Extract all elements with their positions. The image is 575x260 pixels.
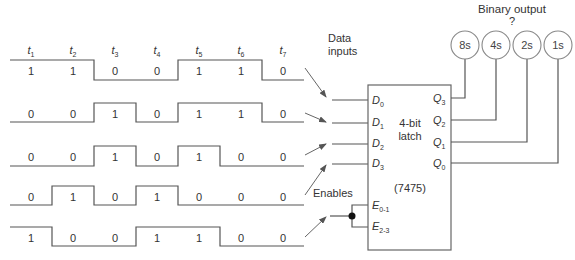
time-label: t3: [112, 44, 119, 58]
pin-e23: E2-3: [372, 220, 389, 234]
bit-value: 1: [154, 191, 160, 203]
bit-value: 1: [238, 65, 244, 77]
bit-value: 0: [112, 65, 118, 77]
time-label: t2: [70, 44, 77, 58]
bit-value: 0: [280, 191, 286, 203]
arrow-d1: [305, 113, 326, 122]
arrow-enable: [305, 217, 326, 237]
bit-value: 1: [70, 65, 76, 77]
bit-value: 0: [280, 151, 286, 163]
bit-value: 1: [196, 65, 202, 77]
bit-value: 0: [154, 108, 160, 120]
time-label: t1: [28, 44, 35, 58]
bit-value: 0: [28, 151, 34, 163]
time-label: t7: [280, 44, 287, 58]
bit-value: 0: [112, 191, 118, 203]
bit-value: 0: [280, 65, 286, 77]
bit-value: 0: [280, 232, 286, 244]
bit-value: 1: [112, 151, 118, 163]
binary-output-label: Binary output: [478, 4, 546, 16]
pin-q1: Q1: [433, 136, 445, 150]
wire-q3: [451, 59, 465, 98]
bit-value: 0: [154, 151, 160, 163]
indicator-label-2s: 2s: [521, 39, 533, 51]
indicator-label-4s: 4s: [490, 39, 502, 51]
pin-q2: Q2: [433, 114, 445, 128]
bit-value: 0: [112, 232, 118, 244]
bit-value: 0: [238, 151, 244, 163]
latch-title-line2: latch: [398, 131, 421, 142]
pin-q0: Q0: [433, 157, 445, 171]
bit-value: 0: [196, 191, 202, 203]
bit-value: 0: [28, 108, 34, 120]
time-label: t6: [238, 44, 245, 58]
bit-value: 0: [238, 232, 244, 244]
pin-q3: Q3: [433, 92, 445, 106]
bit-value: 1: [112, 108, 118, 120]
bit-value: 0: [70, 232, 76, 244]
bit-value: 1: [70, 191, 76, 203]
binary-output-question: ?: [509, 16, 515, 27]
pin-d1: D1: [372, 116, 384, 130]
data-inputs-label-line1: Data: [328, 33, 357, 44]
bit-value: 1: [196, 108, 202, 120]
wire-q0: [451, 59, 558, 163]
pin-d3: D3: [372, 157, 384, 171]
latch-title-line1: 4-bit: [399, 118, 420, 129]
junction-dot: [349, 213, 356, 220]
bit-value: 1: [196, 151, 202, 163]
bit-value: 0: [280, 108, 286, 120]
bit-value: 0: [70, 108, 76, 120]
time-label: t5: [196, 44, 203, 58]
pin-d2: D2: [372, 137, 384, 151]
enables-label: Enables: [313, 188, 353, 199]
bit-value: 1: [154, 232, 160, 244]
arrow-d2: [305, 144, 326, 155]
wire-q2: [451, 59, 496, 120]
bit-value: 1: [28, 65, 34, 77]
bit-value: 1: [238, 108, 244, 120]
pin-e01: E0-1: [372, 199, 389, 213]
diagram-wires: [0, 0, 575, 260]
latch-timing-diagram: t1t2t3t4t5t6t7 1100110001011000101000101…: [0, 0, 575, 260]
indicator-label-8s: 8s: [459, 39, 471, 51]
bit-value: 1: [28, 232, 34, 244]
indicator-label-1s: 1s: [552, 39, 564, 51]
data-inputs-label-line2: inputs: [328, 46, 357, 57]
bit-value: 0: [28, 191, 34, 203]
time-label: t4: [154, 44, 161, 58]
bit-value: 0: [238, 191, 244, 203]
wire-q1: [451, 59, 527, 142]
arrow-d0: [305, 68, 326, 97]
bit-value: 0: [154, 65, 160, 77]
bit-value: 1: [196, 232, 202, 244]
latch-part-number: (7475): [394, 183, 426, 194]
bit-value: 0: [70, 151, 76, 163]
pin-d0: D0: [372, 94, 384, 108]
data-inputs-label: Data inputs: [328, 33, 357, 57]
